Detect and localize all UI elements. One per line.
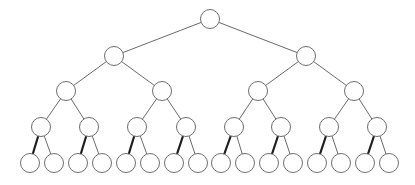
- tree-node-root: [201, 10, 220, 29]
- tree-node: [177, 118, 196, 137]
- tree-nodes: [21, 10, 399, 173]
- tree-node-leaf: [380, 154, 399, 173]
- tree-node: [128, 118, 147, 137]
- tree-node: [297, 47, 316, 66]
- tree-node: [272, 118, 291, 137]
- tree-node-leaf: [141, 154, 160, 173]
- tree-node-leaf: [212, 154, 231, 173]
- tree-node-leaf: [45, 154, 64, 173]
- tree-node: [57, 82, 76, 101]
- tree-node: [368, 118, 387, 137]
- tree-node-leaf: [69, 154, 88, 173]
- tree-node: [345, 82, 364, 101]
- tree-node-leaf: [21, 154, 40, 173]
- tree-node: [249, 82, 268, 101]
- tree-node-leaf: [93, 154, 112, 173]
- tree-node: [153, 82, 172, 101]
- tree-edge: [210, 19, 306, 56]
- tree-edge: [114, 19, 210, 56]
- tree-node-leaf: [117, 154, 136, 173]
- tree-node-leaf: [189, 154, 208, 173]
- tree-node-leaf: [284, 154, 303, 173]
- tree-node: [225, 118, 244, 137]
- tree-node-leaf: [260, 154, 279, 173]
- tree-node-leaf: [332, 154, 351, 173]
- tree-node: [80, 118, 99, 137]
- binary-tree-diagram: [0, 0, 415, 185]
- tree-node-leaf: [236, 154, 255, 173]
- tree-node: [32, 118, 51, 137]
- tree-node-leaf: [165, 154, 184, 173]
- tree-node: [320, 118, 339, 137]
- tree-node: [105, 47, 124, 66]
- tree-edges: [30, 19, 389, 163]
- tree-node-leaf: [308, 154, 327, 173]
- tree-node-leaf: [356, 154, 375, 173]
